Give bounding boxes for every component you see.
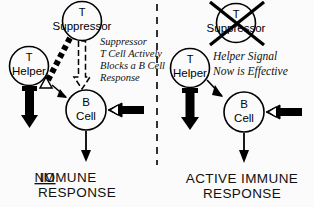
left-annotation-line-4: Response (99, 72, 140, 83)
right-b-cell-line1: B (240, 98, 248, 110)
right-panel: T Suppressor T Helper (171, 2, 303, 201)
right-t-helper-cell: T Helper (171, 49, 210, 88)
left-suppressor-to-bcell-arrow (74, 41, 90, 89)
right-b-cell: B Cell (224, 92, 264, 132)
right-helper-to-bcell-arrow (207, 80, 223, 97)
right-t-helper-line2: Helper (173, 67, 207, 79)
right-caption-line2: RESPONSE (203, 186, 281, 201)
left-caption-line2: RESPONSE (38, 185, 116, 200)
left-t-suppressor-line1: T (79, 6, 86, 18)
left-b-cell-line1: B (82, 96, 90, 108)
left-t-helper-cell: T Helper (10, 47, 49, 86)
right-annotation-line-1: Helper Signal (212, 50, 277, 63)
right-antigen-input-arrow (266, 105, 302, 119)
left-b-cell: B Cell (66, 90, 106, 130)
right-helper-output-arrow (181, 88, 199, 130)
left-annotation-line-3: Blocks a B Cell (100, 60, 165, 71)
left-t-helper-line1: T (26, 51, 33, 63)
left-bcell-output-arrow (81, 131, 91, 162)
left-t-suppressor-cell: T Suppressor (53, 2, 112, 41)
right-annotation: Helper Signal Now is Effective (212, 50, 288, 78)
left-helper-to-bcell-arrowhead (52, 85, 67, 98)
diagram-artwork: T Suppressor T Helper (0, 0, 314, 207)
right-caption-line1: ACTIVE IMMUNE (186, 171, 298, 186)
right-caption: ACTIVE IMMUNE RESPONSE (186, 171, 298, 201)
left-annotation-line-2: T Cell Actively (100, 48, 162, 59)
left-suppressor-blocking-arrow (40, 38, 70, 88)
left-annotation: Suppressor T Cell Actively Blocks a B Ce… (99, 36, 165, 83)
left-antigen-input-arrow (108, 103, 144, 117)
left-t-helper-line2: Helper (12, 65, 46, 77)
right-t-suppressor-cell: T Suppressor (207, 2, 266, 45)
right-t-helper-line1: T (187, 53, 194, 65)
diagram-canvas: T Suppressor T Helper (0, 0, 314, 207)
left-b-cell-line2: Cell (76, 110, 96, 122)
right-t-suppressor-line1: T (233, 8, 240, 20)
left-panel: T Suppressor T Helper (10, 2, 166, 201)
left-helper-output-arrow (21, 86, 38, 128)
right-bcell-output-arrow (239, 133, 249, 163)
right-b-cell-line2: Cell (234, 112, 254, 124)
left-annotation-line-1: Suppressor (100, 36, 148, 47)
left-caption: NO IMMUNE RESPONSE (34, 170, 116, 200)
right-annotation-line-2: Now is Effective (212, 65, 288, 78)
left-caption-rest-word: IMMUNE (39, 170, 96, 185)
left-t-suppressor-line2: Suppressor (53, 20, 112, 32)
